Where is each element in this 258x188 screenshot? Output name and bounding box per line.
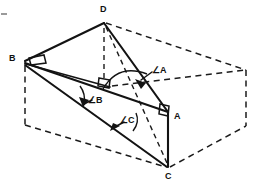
vertex-label-c: C (165, 172, 172, 181)
edge-box-top-right (106, 23, 246, 70)
angle-label-a: ∠A (152, 66, 167, 75)
vertex-label-d: D (100, 5, 107, 14)
geometry-figure: D B A C ∠A ∠B ∠C (0, 0, 258, 188)
edge-BD (25, 23, 104, 61)
figure-canvas (0, 0, 258, 188)
vertex-label-b: B (9, 54, 16, 63)
edge-box-bottom-right-diag (170, 126, 246, 167)
edge-box-bottom-left-diag (25, 125, 166, 167)
angle-label-b: ∠B (88, 96, 103, 105)
vertex-label-a: A (174, 112, 181, 121)
right-angle-at-b (29, 55, 46, 65)
edge-box-front-right-upper (112, 70, 246, 86)
angle-label-c: ∠C (120, 116, 135, 125)
